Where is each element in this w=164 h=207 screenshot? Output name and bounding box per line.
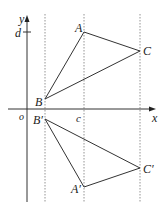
y-axis-arrow-icon (25, 15, 30, 22)
triangle-abc-prime (45, 119, 140, 187)
reflection-diagram: y d o x c A B C B′ C′ A′ (0, 0, 164, 207)
point-label-c: C (143, 45, 151, 57)
x-axis-label: x (152, 112, 157, 124)
triangle-abc (45, 32, 140, 99)
point-label-c-prime: C′ (143, 163, 154, 175)
y-axis-label: y (19, 13, 24, 25)
point-label-b-prime: B′ (33, 114, 43, 126)
point-label-a-prime: A′ (71, 183, 81, 195)
point-label-a: A (75, 22, 82, 34)
point-label-b: B (35, 96, 42, 108)
y-tick-label-d: d (15, 27, 21, 39)
x-tick-label-c: c (76, 113, 81, 124)
origin-label: o (19, 112, 24, 122)
